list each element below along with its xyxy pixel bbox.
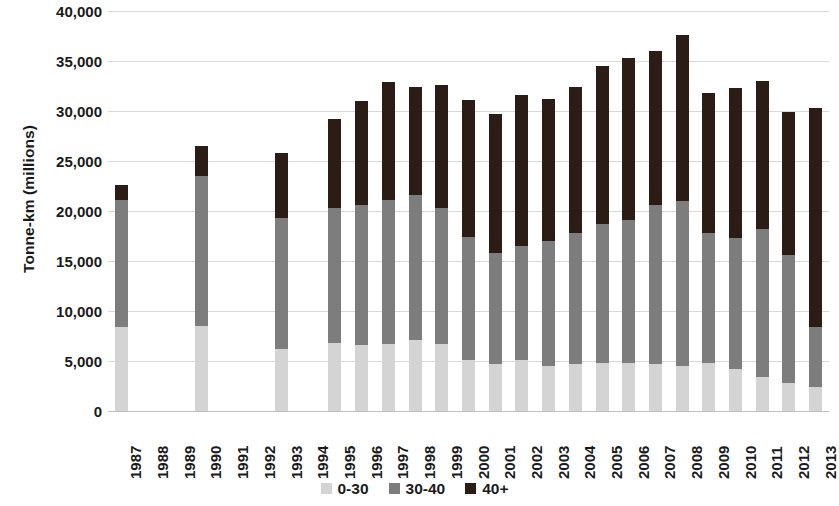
bar-segment-30-40[interactable] [569, 233, 582, 364]
bar-segment-0-30[interactable] [756, 377, 769, 411]
plot-area [108, 11, 829, 411]
bar-group[interactable] [195, 146, 208, 411]
bar-segment-40+[interactable] [328, 119, 341, 208]
bar-segment-40+[interactable] [809, 108, 822, 327]
bar-group[interactable] [328, 119, 341, 411]
bar-segment-30-40[interactable] [676, 201, 689, 366]
bar-segment-30-40[interactable] [756, 229, 769, 377]
bar-segment-0-30[interactable] [702, 363, 715, 411]
bar-segment-40+[interactable] [382, 82, 395, 200]
bar-segment-30-40[interactable] [782, 255, 795, 383]
bar-segment-30-40[interactable] [622, 220, 635, 363]
bar-segment-30-40[interactable] [462, 237, 475, 360]
bar-segment-40+[interactable] [462, 100, 475, 237]
bar-group[interactable] [729, 88, 742, 411]
bar-segment-0-30[interactable] [409, 340, 422, 411]
bar-segment-40+[interactable] [596, 66, 609, 224]
bar-segment-30-40[interactable] [275, 218, 288, 349]
bar-segment-0-30[interactable] [622, 363, 635, 411]
bar-segment-0-30[interactable] [729, 369, 742, 411]
bar-segment-0-30[interactable] [328, 343, 341, 411]
bar-group[interactable] [622, 58, 635, 411]
bar-group[interactable] [489, 114, 502, 411]
bar-segment-0-30[interactable] [462, 360, 475, 411]
bar-group[interactable] [702, 93, 715, 411]
x-axis-tick-label: 1991 [234, 417, 251, 479]
bar-group[interactable] [409, 87, 422, 411]
bar-segment-30-40[interactable] [489, 253, 502, 364]
x-axis-tick-label: 2002 [528, 417, 545, 479]
bar-segment-0-30[interactable] [195, 326, 208, 411]
bar-segment-0-30[interactable] [382, 344, 395, 411]
bar-segment-40+[interactable] [515, 95, 528, 246]
y-axis-tick-label: 15,000 [20, 253, 102, 270]
bar-segment-30-40[interactable] [649, 205, 662, 364]
bar-segment-30-40[interactable] [328, 208, 341, 343]
bar-segment-0-30[interactable] [676, 366, 689, 411]
bar-segment-30-40[interactable] [702, 233, 715, 363]
bar-group[interactable] [355, 101, 368, 411]
bar-group[interactable] [275, 153, 288, 411]
bar-group[interactable] [569, 87, 582, 411]
bar-segment-40+[interactable] [355, 101, 368, 205]
bar-segment-0-30[interactable] [596, 363, 609, 411]
bar-segment-30-40[interactable] [409, 195, 422, 340]
bar-segment-40+[interactable] [782, 112, 795, 255]
bar-segment-30-40[interactable] [542, 241, 555, 366]
bar-segment-30-40[interactable] [596, 224, 609, 363]
bar-segment-40+[interactable] [729, 88, 742, 238]
bar-segment-40+[interactable] [489, 114, 502, 253]
x-axis-tick-label: 2008 [688, 417, 705, 479]
legend-item[interactable]: 30-40 [389, 481, 446, 497]
bar-group[interactable] [435, 85, 448, 411]
bar-segment-0-30[interactable] [542, 366, 555, 411]
bar-segment-40+[interactable] [622, 58, 635, 220]
bar-segment-30-40[interactable] [515, 246, 528, 360]
bar-group[interactable] [462, 100, 475, 411]
bar-segment-0-30[interactable] [489, 364, 502, 411]
bar-segment-30-40[interactable] [729, 238, 742, 369]
bar-segment-30-40[interactable] [355, 205, 368, 345]
bar-segment-40+[interactable] [569, 87, 582, 233]
bar-segment-40+[interactable] [649, 51, 662, 205]
bar-segment-30-40[interactable] [809, 327, 822, 387]
bar-segment-40+[interactable] [756, 81, 769, 229]
legend-item[interactable]: 0-30 [321, 481, 369, 497]
bar-segment-30-40[interactable] [382, 200, 395, 344]
bar-segment-0-30[interactable] [355, 345, 368, 411]
bar-group[interactable] [542, 99, 555, 411]
bar-group[interactable] [756, 81, 769, 411]
bar-segment-0-30[interactable] [782, 383, 795, 411]
bar-group[interactable] [649, 51, 662, 411]
bar-segment-30-40[interactable] [435, 208, 448, 344]
bar-group[interactable] [596, 66, 609, 411]
bar-segment-30-40[interactable] [115, 200, 128, 327]
bar-segment-40+[interactable] [409, 87, 422, 195]
bar-segment-40+[interactable] [702, 93, 715, 233]
bar-segment-30-40[interactable] [195, 176, 208, 326]
bar-segment-0-30[interactable] [435, 344, 448, 411]
bar-segment-0-30[interactable] [649, 364, 662, 411]
bar-segment-40+[interactable] [676, 35, 689, 201]
bar-segment-40+[interactable] [435, 85, 448, 208]
bar-group[interactable] [382, 82, 395, 411]
bar-segment-0-30[interactable] [809, 387, 822, 411]
x-axis-tick-label: 1999 [448, 417, 465, 479]
bar-segment-0-30[interactable] [275, 349, 288, 411]
bar-segment-40+[interactable] [195, 146, 208, 176]
bar-group[interactable] [115, 185, 128, 411]
bar-group[interactable] [515, 95, 528, 411]
bar-group[interactable] [782, 112, 795, 411]
bar-segment-0-30[interactable] [515, 360, 528, 411]
x-axis-tick-label: 2005 [608, 417, 625, 479]
bar-segment-40+[interactable] [542, 99, 555, 241]
bar-group[interactable] [676, 35, 689, 411]
x-axis-tick-label: 2006 [635, 417, 652, 479]
bar-segment-40+[interactable] [275, 153, 288, 218]
bar-group[interactable] [809, 108, 822, 411]
legend-item[interactable]: 40+ [465, 481, 508, 497]
bar-segment-0-30[interactable] [115, 327, 128, 411]
bar-segment-0-30[interactable] [569, 364, 582, 411]
bar-segment-40+[interactable] [115, 185, 128, 200]
x-axis-tick-label: 1989 [181, 417, 198, 479]
